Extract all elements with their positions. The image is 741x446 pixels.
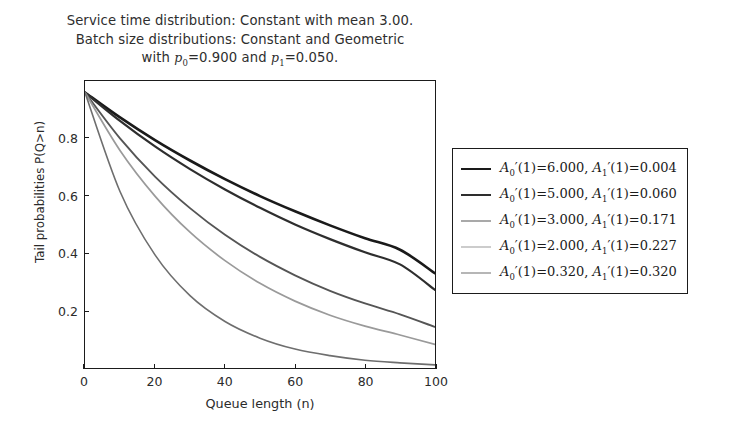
x-tick-label: 0 [62, 374, 106, 389]
legend-line-swatch [461, 214, 491, 228]
x-tick-label: 20 [132, 374, 176, 389]
legend-item[interactable]: A0′(1)=6.000, A1′(1)=0.004 [461, 156, 677, 182]
legend-line-swatch [461, 240, 491, 254]
title-line-3: with p0=0.900 and p1=0.050. [30, 49, 450, 72]
legend-item[interactable]: A0′(1)=3.000, A1′(1)=0.171 [461, 208, 677, 234]
plot-area [84, 80, 436, 369]
x-axis-ticklabels: 020406080100 [84, 374, 436, 394]
p0-symbol: p0 [174, 50, 188, 65]
y-axis-label: Tail probabilities P(Q>n) [33, 92, 47, 292]
legend-item[interactable]: A0′(1)=0.320, A1′(1)=0.320 [461, 260, 677, 286]
legend-item-label: A0′(1)=5.000, A1′(1)=0.060 [500, 186, 677, 204]
curve-series-1 [85, 92, 435, 289]
curve-series-0 [85, 92, 435, 273]
x-tick-label: 40 [203, 374, 247, 389]
legend-line-swatch [461, 188, 491, 202]
p0-value: 0.900 [199, 50, 237, 65]
p1-value: 0.050 [296, 50, 334, 65]
legend-line-swatch [461, 162, 491, 176]
x-tick-label: 60 [273, 374, 317, 389]
legend-item[interactable]: A0′(1)=2.000, A1′(1)=0.227 [461, 234, 677, 260]
legend-item-label: A0′(1)=3.000, A1′(1)=0.171 [500, 212, 677, 230]
p1-symbol: p1 [271, 50, 285, 65]
legend-box: A0′(1)=6.000, A1′(1)=0.004A0′(1)=5.000, … [452, 148, 688, 294]
chart-title: Service time distribution: Constant with… [30, 12, 450, 72]
x-tick-label: 100 [414, 374, 458, 389]
legend-item-label: A0′(1)=2.000, A1′(1)=0.227 [500, 238, 677, 256]
legend-line-swatch [461, 266, 491, 280]
y-tick-label: 0.2 [32, 304, 78, 319]
legend-item[interactable]: A0′(1)=5.000, A1′(1)=0.060 [461, 182, 677, 208]
legend-item-label: A0′(1)=6.000, A1′(1)=0.004 [500, 160, 677, 178]
x-tick-label: 80 [344, 374, 388, 389]
legend-item-label: A0′(1)=0.320, A1′(1)=0.320 [500, 264, 677, 282]
title-line-1: Service time distribution: Constant with… [30, 12, 450, 31]
x-axis-label: Queue length (n) [84, 396, 436, 411]
title-line-2: Batch size distributions: Constant and G… [30, 31, 450, 50]
curves-layer [85, 81, 435, 368]
figure-canvas: Service time distribution: Constant with… [0, 0, 741, 446]
